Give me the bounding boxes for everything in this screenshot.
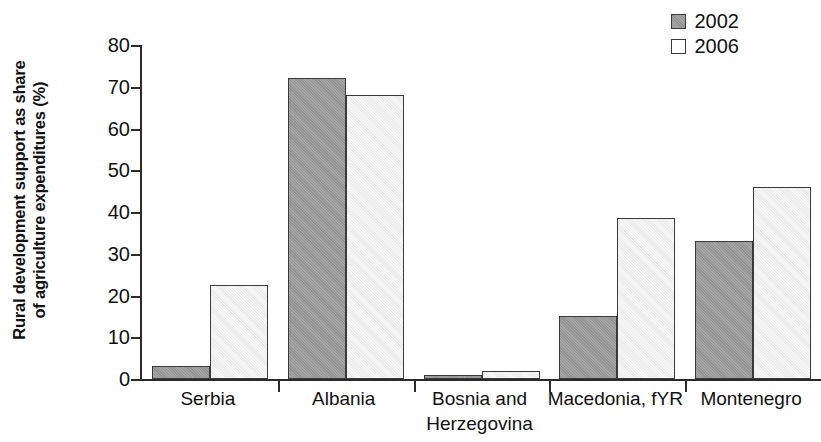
- y-axis-tick-label: 30: [108, 244, 130, 264]
- bar-bosnia-and-herzegovina-2002: [424, 375, 482, 379]
- x-axis-category-labels: SerbiaAlbaniaBosnia andHerzegovinaMacedo…: [140, 386, 821, 442]
- plot-area: 01020304050607080: [140, 45, 812, 380]
- bar-bosnia-and-herzegovina-2006: [482, 371, 540, 379]
- x-axis-label-line: Serbia: [180, 388, 235, 409]
- x-axis-label-line: Herzegovina: [412, 411, 548, 436]
- x-axis-label-line: Albania: [312, 388, 375, 409]
- y-axis-tick-label: 40: [108, 202, 130, 222]
- y-axis-tick: [131, 129, 140, 131]
- x-axis-line: [140, 379, 821, 381]
- x-axis-label-line: Bosnia and: [432, 388, 527, 409]
- y-axis-tick: [131, 296, 140, 298]
- y-axis-tick-label: 20: [108, 286, 130, 306]
- x-axis-label-serbia: Serbia: [140, 386, 276, 411]
- bar-chart-figure: Rural development support as share of ag…: [0, 0, 821, 442]
- bar-macedonia-fyr-2002: [559, 316, 617, 379]
- y-axis-tick-label: 0: [119, 369, 130, 389]
- y-axis-title-line-1: Rural development support as share: [9, 60, 29, 339]
- y-axis-title-line-2: of agriculture expenditures (%): [29, 60, 49, 339]
- bar-albania-2006: [346, 95, 404, 379]
- bar-montenegro-2002: [695, 241, 753, 379]
- y-axis-tick-label: 60: [108, 119, 130, 139]
- legend-item-2002: 2002: [671, 11, 740, 31]
- x-axis-label-line: Macedonia, fYR: [548, 388, 683, 409]
- x-axis-label-macedonia-fyr: Macedonia, fYR: [547, 386, 683, 411]
- y-axis-tick: [131, 45, 140, 47]
- y-axis-tick-label: 50: [108, 160, 130, 180]
- x-axis-label-line: Montenegro: [700, 388, 801, 409]
- x-axis-label-bosnia-and-herzegovina: Bosnia andHerzegovina: [412, 386, 548, 436]
- legend-label-2002: 2002: [695, 11, 740, 31]
- bar-albania-2002: [288, 78, 346, 379]
- y-axis-tick-label: 80: [108, 35, 130, 55]
- x-axis-label-montenegro: Montenegro: [683, 386, 819, 411]
- y-axis-tick: [131, 170, 140, 172]
- y-axis-tick: [131, 254, 140, 256]
- y-axis-tick-label: 70: [108, 77, 130, 97]
- bar-group-container: [142, 45, 821, 379]
- bar-montenegro-2006: [753, 187, 811, 379]
- bar-macedonia-fyr-2006: [617, 218, 675, 379]
- y-axis-tick: [131, 87, 140, 89]
- x-axis-label-albania: Albania: [276, 386, 412, 411]
- bar-serbia-2002: [152, 366, 210, 379]
- y-axis-tick: [131, 379, 140, 381]
- legend-swatch-2002: [671, 14, 686, 29]
- y-axis-title: Rural development support as share of ag…: [0, 0, 58, 400]
- y-axis-tick: [131, 337, 140, 339]
- y-axis-tick-label: 10: [108, 327, 130, 347]
- bar-serbia-2006: [210, 285, 268, 379]
- y-axis-tick-labels: 01020304050607080: [62, 45, 130, 381]
- y-axis-tick: [131, 212, 140, 214]
